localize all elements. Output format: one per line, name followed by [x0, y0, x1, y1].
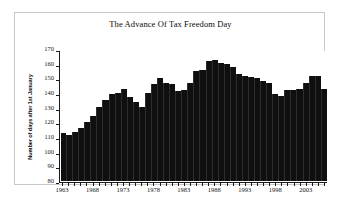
- x-tick-label: 1993: [238, 187, 251, 194]
- x-axis-ticks: 196319681973197819831988199319982003: [59, 183, 327, 197]
- x-tick-mark: [220, 183, 221, 186]
- x-tick-mark: [105, 183, 106, 186]
- y-tick-label: 110: [44, 134, 54, 141]
- x-tick-mark: [202, 183, 203, 186]
- x-tick-mark: [166, 183, 167, 186]
- x-tick-mark: [68, 183, 69, 186]
- x-tick-mark: [257, 183, 258, 186]
- y-tick-label: 130: [44, 105, 54, 112]
- y-tick-label: 90: [48, 163, 55, 170]
- y-tick-label: 160: [44, 61, 54, 68]
- x-tick-mark: [263, 183, 264, 186]
- x-tick-mark: [318, 183, 319, 186]
- chart-figure-frame: The Advance Of Tax Freedom Day Number of…: [14, 12, 325, 185]
- x-tick-mark: [251, 183, 252, 186]
- x-tick-label: 2003: [299, 187, 312, 194]
- x-tick-mark: [233, 183, 234, 186]
- x-tick-mark: [129, 183, 130, 186]
- x-tick-mark: [135, 183, 136, 186]
- y-tick-label: 150: [44, 75, 54, 82]
- x-tick-mark: [281, 183, 282, 186]
- x-tick-label: 1968: [86, 187, 99, 194]
- x-tick-label: 1988: [208, 187, 221, 194]
- y-tick-label: 120: [44, 119, 54, 126]
- chart-title: The Advance Of Tax Freedom Day: [15, 19, 326, 29]
- x-tick-mark: [312, 183, 313, 186]
- x-tick-label: 1973: [116, 187, 129, 194]
- y-tick-label: 170: [44, 46, 54, 53]
- x-tick-mark: [99, 183, 100, 186]
- x-tick-label: 1963: [56, 187, 69, 194]
- bar: [321, 89, 327, 181]
- y-axis-ticks: 8090100110120130140150160170: [15, 13, 59, 184]
- x-tick-mark: [74, 183, 75, 186]
- x-tick-mark: [80, 183, 81, 186]
- x-tick-mark: [172, 183, 173, 186]
- x-tick-mark: [324, 183, 325, 186]
- x-tick-mark: [190, 183, 191, 186]
- x-tick-mark: [227, 183, 228, 186]
- x-tick-mark: [196, 183, 197, 186]
- x-tick-label: 1998: [269, 187, 282, 194]
- x-tick-mark: [294, 183, 295, 186]
- y-tick-label: 100: [44, 149, 54, 156]
- x-tick-mark: [141, 183, 142, 186]
- bar-series: [61, 51, 327, 181]
- plot-area: [59, 51, 327, 183]
- y-tick-label: 140: [44, 90, 54, 97]
- x-tick-mark: [287, 183, 288, 186]
- y-tick-label: 80: [48, 178, 55, 185]
- x-tick-mark: [160, 183, 161, 186]
- x-tick-mark: [111, 183, 112, 186]
- x-tick-label: 1983: [177, 187, 190, 194]
- x-tick-label: 1978: [147, 187, 160, 194]
